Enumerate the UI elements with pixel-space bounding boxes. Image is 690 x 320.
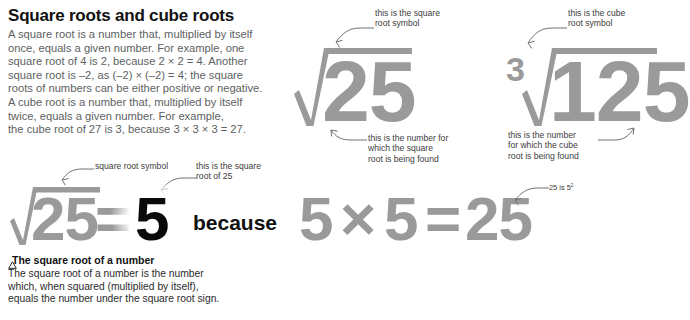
intro-line: A cube root is a number that, multiplied… — [8, 96, 276, 110]
equation-symbol-label: square root symbol — [95, 161, 168, 171]
leader-product-note — [509, 186, 553, 208]
intro-line: square root is –2, as (–2) × (–2) = 4; t… — [8, 69, 276, 83]
exponent: 2 — [571, 183, 574, 188]
intro-line: square root of 4 is 2, because 2 × 2 = 4… — [8, 55, 276, 69]
cube-root-radicand: 125 — [549, 48, 690, 134]
product-left-operand: 5 — [299, 188, 332, 250]
caption-line: which, when squared (multiplied by itsel… — [8, 281, 278, 294]
intro-line: once, equals a given number. For example… — [8, 42, 276, 56]
equation-result-label: this is the square root of 25 — [196, 161, 261, 182]
equation-equals-sign: = — [95, 188, 130, 250]
equation-radicand: 25 — [31, 188, 98, 250]
caption-line: The square root of a number is the numbe… — [8, 268, 278, 281]
leader-cube-root-radicand — [596, 124, 642, 148]
page-title: Square roots and cube roots — [8, 6, 234, 26]
caption-line: equals the number under the square root … — [8, 293, 278, 306]
intro-line: A square root is a number that, multipli… — [8, 28, 276, 42]
square-root-radicand-label: this is the number for which the square … — [368, 133, 448, 164]
product-right-operand: 5 — [384, 188, 417, 250]
square-root-radicand: 25 — [322, 48, 416, 134]
equation-result: 5 — [135, 188, 168, 250]
because-connector: because — [193, 212, 277, 233]
caption-block: The square root of a number The square r… — [8, 254, 278, 306]
intro-paragraph: A square root is a number that, multipli… — [8, 28, 276, 137]
caption-title-row: The square root of a number — [8, 254, 278, 267]
product-equals-sign: = — [425, 188, 460, 250]
caption-body: The square root of a number is the numbe… — [8, 268, 278, 306]
leader-square-root-radicand — [325, 126, 371, 150]
cube-root-radicand-label: this is the number for which the cube ro… — [508, 130, 579, 161]
caption-title: The square root of a number — [12, 254, 154, 267]
intro-line: the cube root of 27 is 3, because 3 × 3 … — [8, 123, 276, 137]
product-times-sign: × — [340, 188, 375, 250]
intro-line: roots of numbers can be either positive … — [8, 82, 276, 96]
intro-line: twice, equals a given number. For exampl… — [8, 110, 276, 124]
